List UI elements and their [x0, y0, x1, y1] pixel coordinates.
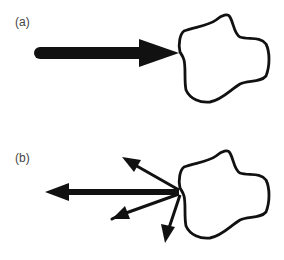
up-left-force-arrow-head [122, 157, 141, 172]
panel-b: (b) [15, 151, 269, 243]
down-force-arrow-head [161, 224, 175, 243]
up-left-force-arrow-shaft [135, 165, 179, 190]
down-left-force-arrow-shaft [126, 194, 179, 213]
panel-a: (a) [15, 15, 269, 102]
panel-a-body [179, 15, 269, 102]
down-force-arrow-shaft [169, 195, 180, 228]
panel-a-arrow-head [139, 39, 179, 67]
panel-b-label: (b) [15, 151, 30, 165]
diagram-canvas: (a) (b) [0, 0, 284, 260]
panel-b-body [179, 151, 269, 238]
left-force-arrow-head [45, 183, 69, 201]
panel-a-label: (a) [15, 15, 30, 29]
diagram-svg: (a) (b) [0, 0, 284, 260]
